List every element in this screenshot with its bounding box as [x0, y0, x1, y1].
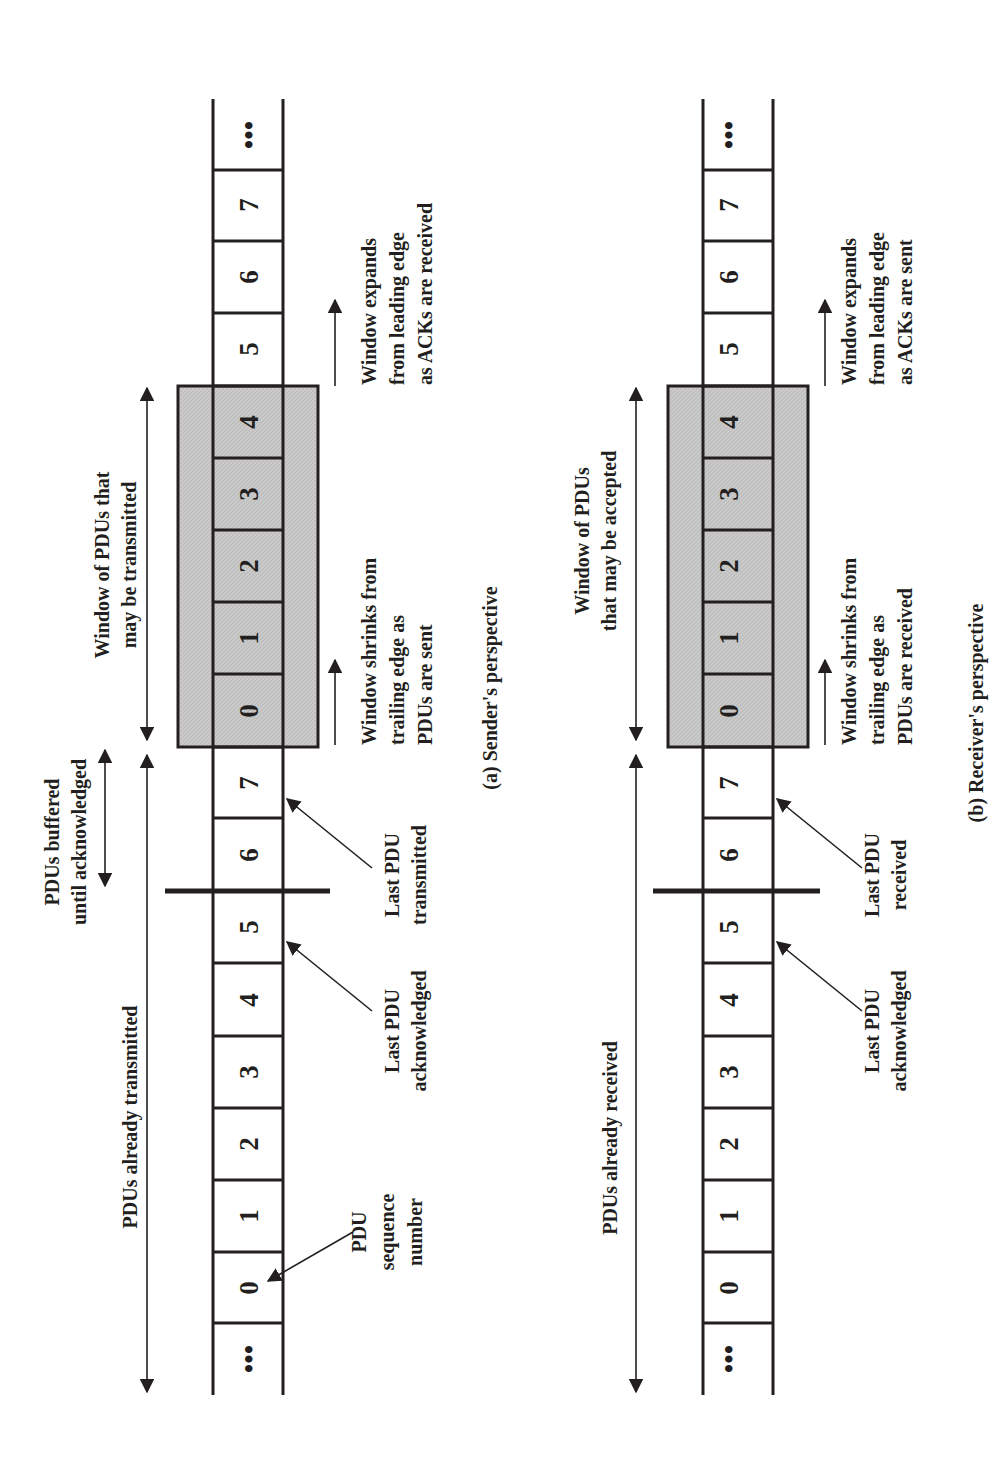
- receiver-caption: (b) Receiver's perspective: [965, 603, 988, 822]
- window-cell-number: 3: [714, 487, 744, 501]
- sender-panel: ••• 0 1 2 3 4 5 6 7 0 1 2 3 4 5 6 7 •••: [41, 99, 502, 1395]
- cell-number: 7: [234, 776, 264, 790]
- cell-number: 5: [234, 920, 264, 934]
- window-cell-number: 3: [234, 487, 264, 501]
- seqnum-pointer-arrow: [268, 1232, 353, 1281]
- cell-number: 2: [234, 1137, 264, 1151]
- sender-caption: (a) Sender's perspective: [479, 586, 502, 789]
- last-ack-label-line2: acknowledged: [888, 970, 911, 1091]
- window-cell-number: 2: [714, 559, 744, 573]
- cell-number: 1: [234, 1209, 264, 1223]
- cell-number: 3: [234, 1065, 264, 1079]
- seqnum-label-line3: number: [404, 1198, 426, 1266]
- cell-number: 5: [234, 342, 264, 356]
- sliding-window-diagram: ••• 0 1 2 3 4 5 6 7 0 1 2 3 4 5 6 7 •••: [0, 0, 996, 1462]
- window-cell-number: 0: [714, 704, 744, 718]
- cell-number: 5: [714, 920, 744, 934]
- last-received-label-line2: received: [888, 840, 910, 911]
- cell-number: 1: [714, 1209, 744, 1223]
- expands-label-line3: as ACKs are received: [414, 203, 436, 385]
- cell-number: 2: [714, 1137, 744, 1151]
- cell-number: 6: [714, 270, 744, 284]
- last-ack-label-line1: Last PDU: [861, 989, 883, 1073]
- cell-ellipsis: •••: [714, 1345, 744, 1373]
- cell-number: 3: [714, 1065, 744, 1079]
- window-label-line1: Window of PDUs: [571, 467, 593, 615]
- seqnum-label-line1: PDU: [348, 1211, 370, 1252]
- window-label-line1: Window of PDUs that: [91, 471, 113, 658]
- shrinks-label-line1: Window shrinks from: [838, 558, 860, 745]
- cell-ellipsis: •••: [234, 1345, 264, 1373]
- cell-number: 4: [714, 993, 744, 1007]
- cell-number: 7: [234, 198, 264, 212]
- expands-label-line3: as ACKs are sent: [894, 239, 916, 385]
- expands-label-line1: Window expands: [838, 238, 861, 385]
- window-cell-number: 4: [714, 415, 744, 429]
- last-ack-label-line2: acknowledged: [408, 970, 431, 1091]
- expands-label-line1: Window expands: [358, 238, 381, 385]
- last-received-pointer-arrow: [777, 799, 862, 868]
- shrinks-label-line2: trailing edge as: [386, 615, 409, 745]
- window-cell-number: 2: [234, 559, 264, 573]
- window-cell-number: 4: [234, 415, 264, 429]
- window-label-line2: may be transmitted: [118, 482, 141, 649]
- shrinks-label-line2: trailing edge as: [866, 615, 889, 745]
- last-transmitted-pointer-arrow: [287, 799, 372, 868]
- last-transmitted-label-line2: transmitted: [408, 825, 430, 925]
- seqnum-label-line2: sequence: [376, 1194, 399, 1271]
- cell-number: 5: [714, 342, 744, 356]
- buffered-label-line1: PDUs buffered: [41, 779, 63, 906]
- cell-number: 0: [714, 1281, 744, 1295]
- receiver-panel: ••• 0 1 2 3 4 5 6 7 0 1 2 3 4 5 6 7 •••: [571, 99, 988, 1395]
- window-cell-number: 0: [234, 704, 264, 718]
- cell-number: 6: [714, 848, 744, 862]
- shrinks-label-line3: PDUs are sent: [414, 624, 436, 745]
- cell-number: 7: [714, 198, 744, 212]
- expands-label-line2: from leading edge: [386, 232, 409, 385]
- already-received-label: PDUs already received: [599, 1041, 622, 1235]
- cell-number: 6: [234, 270, 264, 284]
- last-transmitted-label-line1: Last PDU: [381, 833, 403, 917]
- cell-number: 4: [234, 993, 264, 1007]
- last-received-label-line1: Last PDU: [861, 833, 883, 917]
- window-cell-number: 1: [234, 631, 264, 645]
- already-transmitted-label: PDUs already transmitted: [119, 1006, 142, 1229]
- cell-ellipsis: •••: [234, 121, 264, 149]
- cell-number: 6: [234, 848, 264, 862]
- window-cell-number: 1: [714, 631, 744, 645]
- last-ack-pointer-arrow: [777, 942, 862, 1011]
- buffered-label-line2: until acknowledged: [68, 759, 91, 925]
- window-label-line2: that may be accepted: [598, 451, 621, 632]
- shrinks-label-line3: PDUs are received: [894, 588, 916, 745]
- last-ack-label-line1: Last PDU: [381, 989, 403, 1073]
- cell-number: 0: [234, 1281, 264, 1295]
- cell-ellipsis: •••: [714, 121, 744, 149]
- shrinks-label-line1: Window shrinks from: [358, 558, 380, 745]
- cell-number: 7: [714, 776, 744, 790]
- expands-label-line2: from leading edge: [866, 232, 889, 385]
- last-ack-pointer-arrow: [287, 942, 372, 1011]
